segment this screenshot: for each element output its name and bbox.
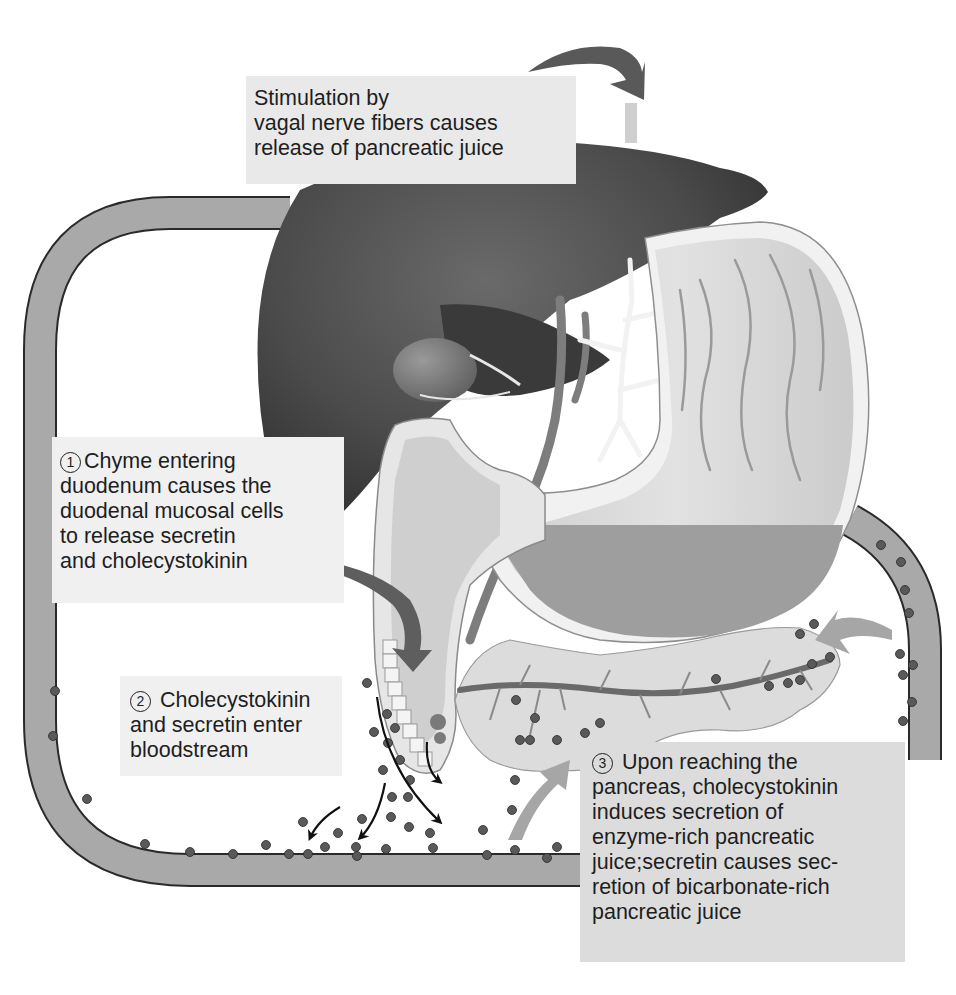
callout-line: Cholecystokinin (154, 688, 311, 712)
callout-line: and secretin enter (130, 713, 334, 738)
page-header (0, 0, 956, 14)
callout-line: vagal nerve fibers causes (254, 111, 568, 136)
callout-step-2-bloodstream: 2 Cholecystokinin and secretin enter blo… (120, 676, 342, 776)
callout-step-3-pancreas: 3 Upon reaching the pancreas, cholecysto… (580, 742, 905, 962)
callout-line: and cholecystokinin (60, 549, 336, 574)
callout-vagal-stimulation: Stimulation by vagal nerve fibers causes… (246, 76, 576, 184)
callout-line: Chyme entering (84, 449, 236, 473)
step-number-badge: 2 (130, 691, 151, 712)
blood-to-pancreas-arrow (508, 760, 570, 840)
callout-line: to release secretin (60, 524, 336, 549)
callout-line: Upon reaching the (616, 750, 798, 774)
callout-line: juice;secretin causes sec- (592, 850, 897, 875)
step-number-badge: 3 (592, 753, 613, 774)
callout-line: induces secretion of (592, 800, 897, 825)
step-number-badge: 1 (60, 452, 81, 473)
callout-line: duodenal mucosal cells (60, 499, 336, 524)
callout-step-1-chyme: 1Chyme entering duodenum causes the duod… (52, 437, 344, 603)
vagal-nerve (625, 103, 637, 143)
callout-line: pancreatic juice (592, 900, 897, 925)
callout-line: pancreas, cholecystokinin (592, 775, 897, 800)
callout-line: release of pancreatic juice (254, 136, 568, 161)
callout-line: retion of bicarbonate-rich (592, 875, 897, 900)
callout-line: enzyme-rich pancreatic (592, 825, 897, 850)
callout-line: Stimulation by (254, 86, 568, 111)
callout-line: bloodstream (130, 738, 334, 763)
callout-line: duodenum causes the (60, 474, 336, 499)
